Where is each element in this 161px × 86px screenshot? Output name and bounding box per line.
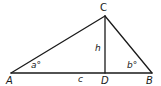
side-c-label: c (78, 74, 83, 84)
angle-b-label: b° (127, 60, 137, 70)
vertex-a-label: A (5, 75, 13, 86)
altitude-label: h (95, 43, 101, 53)
vertex-c-label: C (100, 2, 107, 13)
vertex-b-label: B (146, 75, 153, 86)
vertex-d-label: D (101, 75, 109, 86)
side-ac-line (11, 16, 105, 73)
triangle-diagram: C h a° b° A c D B (0, 0, 161, 86)
angle-a-label: a° (31, 60, 41, 70)
